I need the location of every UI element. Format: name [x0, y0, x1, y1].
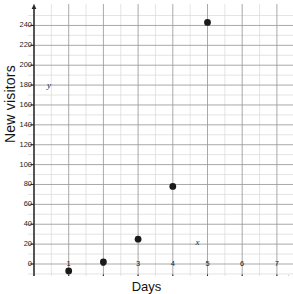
x-tick-label: 4 — [166, 260, 180, 268]
x-axis-variable-label: x — [196, 237, 200, 247]
x-tick-label: 6 — [235, 260, 249, 268]
x-axis-title: Days — [0, 279, 293, 294]
plot-area — [28, 4, 293, 276]
y-tick-label: 20 — [10, 240, 32, 248]
y-tick-label: 160 — [10, 101, 32, 109]
y-tick-label: 120 — [10, 141, 32, 149]
y-tick-label: 40 — [10, 220, 32, 228]
y-axis-variable-label: y — [47, 80, 51, 90]
y-tick-label: 0 — [10, 260, 32, 268]
data-points — [28, 4, 293, 276]
y-tick-label: 240 — [10, 21, 32, 29]
x-tick-label: 5 — [201, 260, 215, 268]
y-tick-label: 140 — [10, 121, 32, 129]
x-tick-label: 2 — [96, 260, 110, 268]
x-tick-label: 7 — [270, 260, 284, 268]
y-tick-label: 60 — [10, 200, 32, 208]
x-tick-label: 3 — [131, 260, 145, 268]
x-tick-label: 1 — [62, 260, 76, 268]
y-tick-label: 100 — [10, 161, 32, 169]
y-tick-label: 200 — [10, 61, 32, 69]
y-tick-label: 80 — [10, 180, 32, 188]
y-tick-label: 220 — [10, 41, 32, 49]
y-tick-label: 180 — [10, 81, 32, 89]
